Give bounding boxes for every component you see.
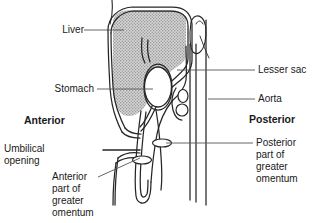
label-aorta: Aorta (258, 93, 282, 105)
label-anterior-omentum-line1: Anterior (52, 171, 87, 183)
label-anterior: Anterior (24, 115, 65, 127)
stomach-lumen (145, 67, 172, 107)
label-posterior-omentum-line4: omentum (256, 173, 298, 185)
label-anterior-omentum-line2: part of (52, 183, 80, 195)
secondary-vessel (176, 104, 188, 116)
label-anterior-omentum-line3: greater (52, 195, 84, 207)
anatomy-figure: Liver Stomach Anterior Umbilical opening… (0, 0, 313, 223)
label-anterior-omentum-line4: omentum (52, 207, 94, 219)
label-lesser-sac: Lesser sac (258, 64, 306, 76)
label-liver: Liver (40, 24, 84, 36)
hiatus-leader-detail (200, 36, 209, 58)
label-posterior-omentum-line3: greater (256, 161, 288, 173)
label-umbilical-opening-line2: opening (4, 155, 40, 167)
hiatus-detail (196, 21, 203, 24)
aorta-vessel (178, 90, 188, 103)
label-posterior: Posterior (249, 114, 295, 126)
label-posterior-omentum-line2: part of (256, 149, 284, 161)
label-umbilical-opening-line1: Umbilical (4, 143, 45, 155)
label-stomach: Stomach (30, 83, 94, 95)
label-posterior-omentum-line1: Posterior (256, 137, 296, 149)
